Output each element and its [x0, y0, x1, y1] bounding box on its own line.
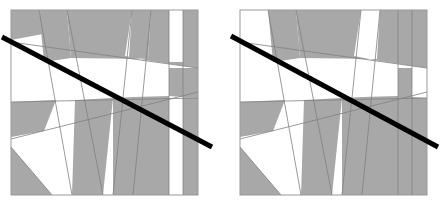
shaded-region	[412, 97, 427, 195]
shaded-region	[129, 10, 151, 59]
figure-container	[0, 0, 444, 205]
two-squares-diagram	[0, 0, 444, 205]
shaded-region	[169, 68, 183, 97]
shaded-region	[113, 97, 133, 195]
shaded-region	[398, 10, 412, 62]
shaded-region	[183, 97, 198, 195]
shaded-region	[342, 97, 362, 195]
